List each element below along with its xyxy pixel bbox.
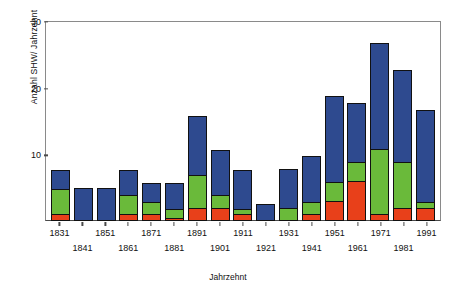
bar-segment-green-1981: [393, 162, 412, 209]
x-tick-mark-1941: [311, 222, 312, 226]
bar-segment-blue-1911: [233, 170, 252, 210]
chart-root: Anzahl SHW/ Jahrzehnt 102030 18311841185…: [0, 0, 456, 293]
bar-1941[interactable]: [302, 156, 321, 220]
bar-segment-green-1961: [347, 162, 366, 182]
bar-1911[interactable]: [233, 170, 252, 220]
x-tick-label-1911: 1911: [233, 228, 252, 238]
x-tick-mark-1991: [426, 222, 427, 226]
bar-segment-blue-1841: [74, 188, 93, 221]
bar-segment-blue-1991: [416, 110, 435, 203]
x-tick-mark-1841: [82, 222, 83, 226]
bar-1871[interactable]: [142, 183, 161, 220]
x-tick-mark-1901: [219, 222, 220, 226]
x-tick-mark-1881: [174, 222, 175, 226]
bar-1851[interactable]: [97, 188, 116, 220]
bar-segment-green-1931: [279, 208, 298, 221]
bar-segment-green-1941: [302, 202, 321, 215]
bar-segment-red-1891: [188, 208, 207, 221]
bar-segment-red-1911: [233, 214, 252, 221]
bar-1831[interactable]: [51, 170, 70, 220]
bar-segment-blue-1871: [142, 183, 161, 203]
x-tick-label-1851: 1851: [95, 228, 115, 238]
x-tick-mark-1981: [403, 222, 404, 226]
bar-segment-green-1951: [325, 182, 344, 202]
bar-1891[interactable]: [188, 116, 207, 220]
bar-segment-red-1951: [325, 201, 344, 221]
bar-segment-red-1881: [165, 218, 184, 221]
bar-segment-green-1831: [51, 189, 70, 216]
x-tick-label-1961: 1961: [348, 243, 368, 253]
bar-segment-green-1891: [188, 175, 207, 208]
bar-1901[interactable]: [211, 150, 230, 220]
bar-segment-blue-1881: [165, 183, 184, 210]
x-axis-title: Jahrzehnt: [0, 272, 456, 282]
x-tick-label-1981: 1981: [394, 243, 414, 253]
x-tick-label-1971: 1971: [371, 228, 391, 238]
x-tick-mark-1831: [59, 222, 60, 226]
bar-segment-red-1831: [51, 214, 70, 221]
x-axis-ticks: 1831184118511861187118811891190119111921…: [45, 222, 441, 270]
bar-segment-green-1871: [142, 202, 161, 215]
bar-segment-red-1871: [142, 214, 161, 221]
bar-segment-red-1941: [302, 214, 321, 221]
bar-1841[interactable]: [74, 188, 93, 220]
bar-segment-red-1961: [347, 181, 366, 221]
bar-1951[interactable]: [325, 96, 344, 220]
x-tick-mark-1911: [242, 222, 243, 226]
bar-segment-blue-1931: [279, 169, 298, 209]
bar-segment-red-1901: [211, 208, 230, 221]
x-tick-label-1991: 1991: [417, 228, 437, 238]
bar-segment-green-1861: [119, 195, 138, 215]
x-tick-label-1901: 1901: [210, 243, 230, 253]
bar-1991[interactable]: [416, 110, 435, 220]
bar-segment-red-1981: [393, 208, 412, 221]
y-tick-label-10: 10: [31, 150, 46, 160]
x-tick-label-1841: 1841: [72, 243, 92, 253]
bar-segment-blue-1961: [347, 103, 366, 163]
bar-segment-blue-1921: [256, 204, 275, 221]
bar-segment-blue-1981: [393, 70, 412, 163]
bar-1961[interactable]: [347, 103, 366, 220]
x-tick-mark-1871: [151, 222, 152, 226]
bar-1881[interactable]: [165, 183, 184, 220]
bar-segment-red-1971: [370, 214, 389, 221]
x-tick-label-1881: 1881: [164, 243, 184, 253]
y-tick-label-20: 20: [31, 84, 46, 94]
x-tick-mark-1921: [265, 222, 266, 226]
x-tick-label-1861: 1861: [118, 243, 138, 253]
plot-area: 102030: [45, 21, 441, 221]
bar-segment-blue-1901: [211, 150, 230, 197]
bar-segment-blue-1971: [370, 43, 389, 150]
x-tick-mark-1851: [105, 222, 106, 226]
bar-segment-green-1901: [211, 195, 230, 208]
bar-segment-blue-1951: [325, 96, 344, 183]
bar-segment-red-1861: [119, 214, 138, 221]
x-tick-label-1891: 1891: [187, 228, 207, 238]
bar-1971[interactable]: [370, 43, 389, 220]
bar-group: [46, 22, 440, 220]
bar-1981[interactable]: [393, 70, 412, 220]
x-tick-label-1941: 1941: [302, 243, 322, 253]
bar-segment-green-1971: [370, 149, 389, 216]
bar-segment-blue-1851: [97, 188, 116, 221]
x-tick-label-1931: 1931: [279, 228, 299, 238]
bar-segment-blue-1831: [51, 170, 70, 190]
bar-segment-blue-1891: [188, 116, 207, 176]
bar-1921[interactable]: [256, 204, 275, 220]
bar-1931[interactable]: [279, 169, 298, 220]
x-tick-mark-1861: [128, 222, 129, 226]
x-tick-mark-1951: [334, 222, 335, 226]
bar-segment-red-1991: [416, 208, 435, 221]
x-tick-mark-1961: [357, 222, 358, 226]
bar-segment-blue-1861: [119, 170, 138, 197]
x-tick-mark-1891: [197, 222, 198, 226]
x-tick-mark-1971: [380, 222, 381, 226]
bar-1861[interactable]: [119, 170, 138, 220]
x-tick-label-1921: 1921: [256, 243, 276, 253]
x-tick-label-1951: 1951: [325, 228, 345, 238]
y-tick-label-30: 30: [31, 17, 46, 27]
x-tick-label-1831: 1831: [49, 228, 69, 238]
x-tick-label-1871: 1871: [141, 228, 161, 238]
x-tick-mark-1931: [288, 222, 289, 226]
bar-segment-blue-1941: [302, 156, 321, 203]
